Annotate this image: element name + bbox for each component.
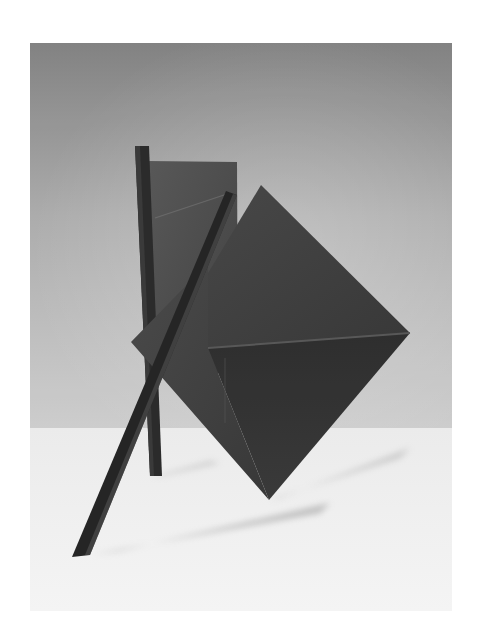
- sculpture-photograph: [30, 43, 452, 611]
- page: [0, 0, 477, 636]
